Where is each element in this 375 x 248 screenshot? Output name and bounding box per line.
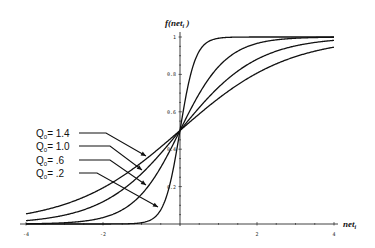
legend-label: Q0= .2 bbox=[36, 168, 65, 180]
legend: Q0= 1.4Q0= 1.0Q0= .6Q0= .2 bbox=[36, 128, 70, 180]
sigmoid-chart: -4-224 0.20.40.60.81 Q0= 1.4Q0= 1.0Q0= .… bbox=[0, 0, 375, 248]
x-tick-label: 2 bbox=[255, 231, 258, 237]
arrowhead-icon bbox=[141, 180, 146, 185]
x-axis-title: neti bbox=[343, 219, 357, 230]
y-tick-label: 0.8 bbox=[167, 71, 176, 77]
y-axis-title: f(neti ) bbox=[165, 18, 189, 29]
legend-label: Q0= 1.4 bbox=[36, 128, 70, 140]
y-tick-label: 0.6 bbox=[167, 109, 176, 115]
x-tick-label: -2 bbox=[100, 231, 106, 237]
legend-arrow-line bbox=[79, 146, 142, 170]
legend-label: Q0= .6 bbox=[36, 155, 65, 167]
legend-arrow-line bbox=[79, 133, 146, 156]
y-tick-label: 1 bbox=[173, 34, 176, 40]
x-tick-label: -4 bbox=[23, 231, 29, 237]
legend-label: Q0= 1.0 bbox=[36, 141, 70, 153]
x-tick-label: 4 bbox=[332, 231, 335, 237]
